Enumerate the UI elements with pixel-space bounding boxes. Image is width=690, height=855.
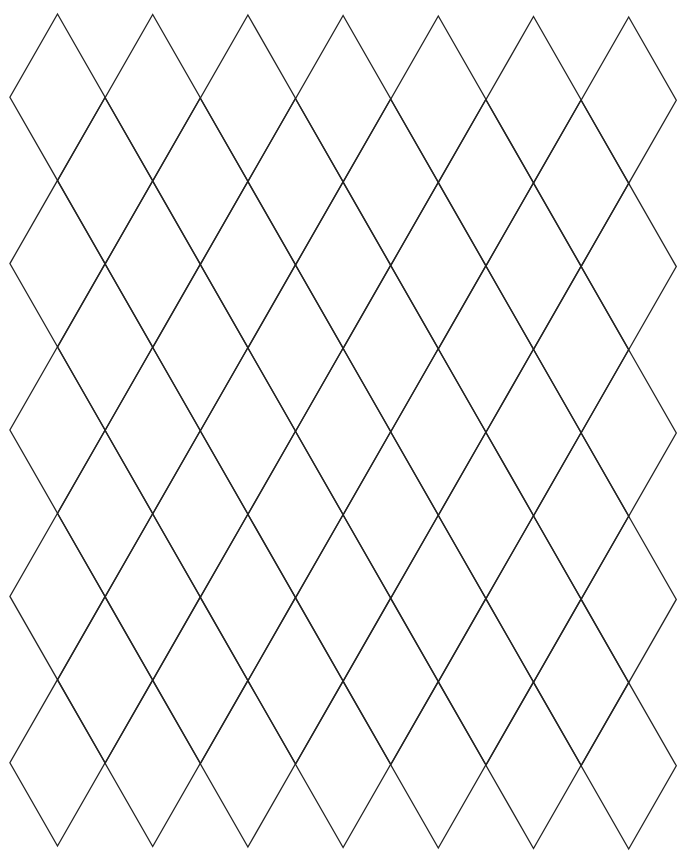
diamond-cell-offset — [153, 264, 248, 430]
diamond-cell — [10, 513, 105, 679]
diamond-cell-offset — [58, 597, 153, 763]
diamond-cell-offset — [343, 598, 438, 764]
diamond-cell-offset — [534, 599, 629, 765]
diamond-cell-offset — [248, 99, 343, 265]
diamond-grid-sheet — [0, 0, 690, 855]
diamond-cell — [10, 14, 105, 180]
diamond-cell — [200, 181, 295, 347]
diamond-cell — [105, 15, 200, 181]
diamond-cell — [391, 16, 486, 182]
diamond-cell — [200, 348, 295, 514]
diamond-cell — [200, 681, 295, 847]
diamond-cell — [486, 682, 581, 848]
diamond-cell-offset — [248, 265, 343, 431]
diamond-cell — [486, 183, 581, 349]
diamond-cell-offset — [153, 98, 248, 264]
diamond-cell-offset — [534, 100, 629, 266]
diamond-cell-offset — [438, 599, 533, 765]
diamond-cell-offset — [343, 432, 438, 598]
diamond-cell — [486, 516, 581, 682]
diamond-cell — [581, 350, 676, 516]
diamond-cell — [581, 683, 676, 849]
diamond-grid — [0, 0, 690, 855]
diamond-cell — [200, 15, 295, 181]
diamond-cell — [391, 682, 486, 848]
diamond-cell-offset — [438, 100, 533, 266]
diamond-cell — [10, 680, 105, 846]
diamond-cell — [486, 349, 581, 515]
diamond-cell-offset — [534, 266, 629, 432]
diamond-cell — [581, 183, 676, 349]
diamond-cell — [296, 182, 391, 348]
diamond-cell-offset — [438, 266, 533, 432]
diamond-cell — [581, 516, 676, 682]
diamond-cell-offset — [58, 264, 153, 430]
diamond-cell — [105, 680, 200, 846]
diamond-cell — [105, 347, 200, 513]
diamond-cell — [581, 17, 676, 183]
diamond-cell — [105, 181, 200, 347]
diamond-cell — [391, 349, 486, 515]
diamond-cell — [296, 16, 391, 182]
diamond-cell-offset — [248, 431, 343, 597]
diamond-cell — [391, 182, 486, 348]
diamond-cell — [486, 17, 581, 183]
diamond-cell — [105, 514, 200, 680]
diamond-cell — [296, 681, 391, 847]
diamond-cell-offset — [534, 433, 629, 599]
diamond-cell — [200, 514, 295, 680]
diamond-cell — [10, 180, 105, 346]
diamond-cell — [296, 348, 391, 514]
diamond-cell — [391, 515, 486, 681]
diamond-cell — [10, 347, 105, 513]
diamond-cell-offset — [343, 265, 438, 431]
diamond-cell-offset — [153, 597, 248, 763]
diamond-cell — [296, 515, 391, 681]
diamond-cell-offset — [58, 98, 153, 264]
diamond-cell-offset — [248, 598, 343, 764]
diamond-cell-offset — [153, 431, 248, 597]
diamond-cell-offset — [58, 430, 153, 596]
diamond-cell-offset — [343, 99, 438, 265]
diamond-cell-offset — [438, 432, 533, 598]
